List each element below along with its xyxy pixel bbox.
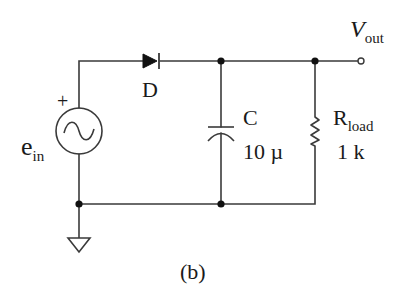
resistor-icon [311, 117, 319, 146]
output-label-main: V [350, 16, 365, 42]
output-terminal-icon [358, 58, 364, 64]
diode-label: D [142, 79, 158, 101]
output-label: Vout [350, 17, 384, 41]
output-label-subscript: out [365, 30, 384, 46]
capacitor-value: 10 µ [243, 141, 283, 163]
resistor-value: 1 k [337, 141, 365, 163]
source-label: ein [21, 134, 44, 160]
resistor-label: Rload [333, 107, 374, 129]
wire-source-to-diode [79, 61, 143, 108]
source-label-main: e [21, 132, 33, 161]
junction-dot-capacitor-top [217, 57, 224, 64]
junction-dot-resistor-top [311, 57, 318, 64]
junction-dot-capacitor-bottom [217, 200, 224, 207]
source-polarity-label: + [57, 91, 68, 111]
diode-icon [143, 53, 159, 69]
source-label-subscript: in [33, 148, 45, 164]
ground-icon [68, 238, 90, 252]
capacitor-label: C [243, 107, 258, 129]
junction-dot-ground [75, 200, 82, 207]
resistor-label-subscript: load [348, 118, 374, 134]
resistor-label-main: R [333, 105, 348, 130]
figure-caption: (b) [180, 261, 206, 283]
ac-voltage-source-icon [56, 108, 102, 154]
